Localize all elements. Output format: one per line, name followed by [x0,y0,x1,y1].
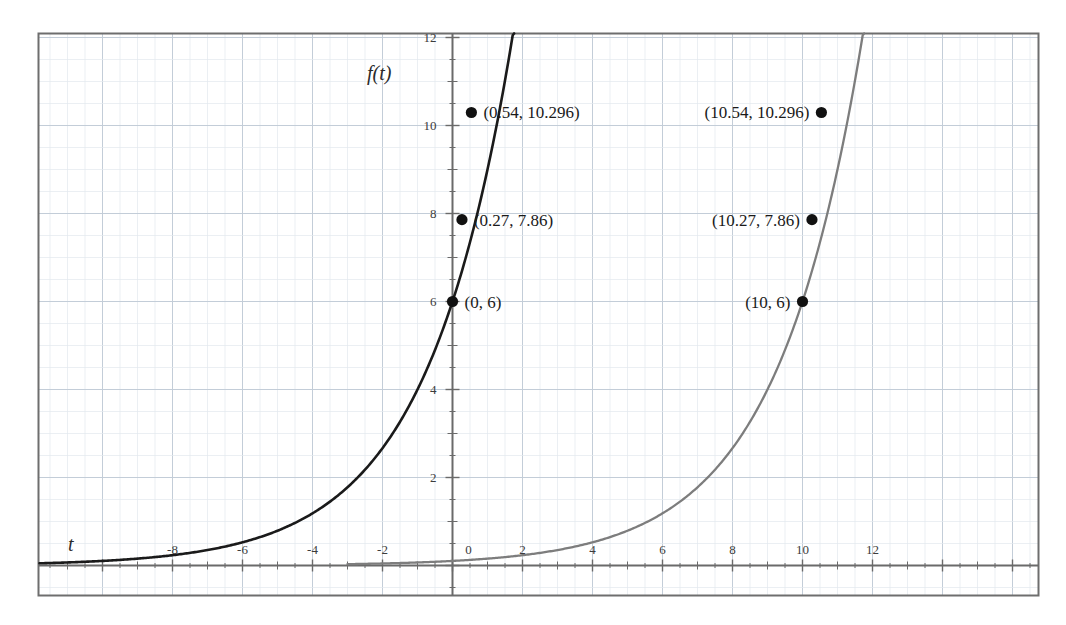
x-tick-label-12: 12 [866,542,879,557]
x-axis-label: t [68,533,74,555]
y-tick-label-6: 6 [430,294,437,309]
y-tick-label-8: 8 [430,206,437,221]
annotation-right-p3: (10, 6) [745,293,790,312]
annotation-left-p3: (0, 6) [465,293,502,312]
chart-page: Is once a.. -8-6-4-202468101224681012 f(… [0,0,1066,625]
data-point [806,214,817,225]
x-tick-label-m6: -6 [237,542,248,557]
y-tick-label-2: 2 [430,470,437,485]
x-tick-label-2: 2 [519,542,526,557]
annotation-left-p1: (0.54, 10.296) [483,103,579,122]
y-axis-label: f(t) [367,62,392,85]
annotation-right-p2: (10.27, 7.86) [712,211,800,230]
data-point [466,107,477,118]
x-tick-label-6: 6 [659,542,666,557]
annotation-right-p1: (10.54, 10.296) [705,103,810,122]
data-point [816,107,827,118]
x-tick-label-m2: -2 [377,542,388,557]
data-point [456,214,467,225]
chart-background [0,0,1066,625]
x-tick-label-10: 10 [796,542,809,557]
x-tick-label-m8: -8 [167,542,178,557]
exponential-growth-chart: -8-6-4-202468101224681012 f(t) t (0.54, … [0,0,1066,625]
annotation-left-p2: (0.27, 7.86) [474,211,553,230]
data-point [447,296,458,307]
y-tick-label-4: 4 [430,382,437,397]
x-tick-label-8: 8 [729,542,736,557]
x-tick-label-4: 4 [589,542,596,557]
data-point [797,296,808,307]
x-tick-label-m4: -4 [307,542,318,557]
y-tick-label-10: 10 [424,118,437,133]
y-tick-label-12: 12 [424,30,437,45]
x-tick-label-0: 0 [465,542,472,557]
